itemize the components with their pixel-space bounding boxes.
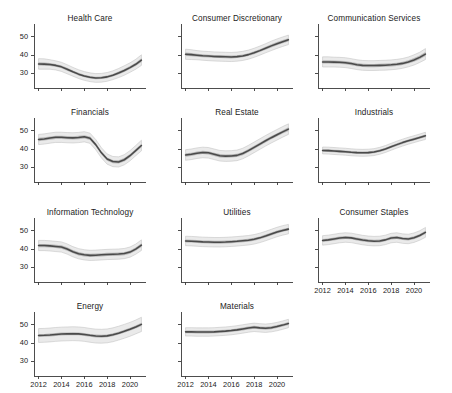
plot-area xyxy=(34,220,148,290)
x-tick-label: 2014 xyxy=(196,381,220,389)
x-tick-label: 2018 xyxy=(379,287,403,295)
panel-title: Health Care xyxy=(34,14,146,24)
panel-financials: Financials xyxy=(34,108,146,182)
panel-communication-services: Communication Services xyxy=(318,14,430,88)
panel-materials: Materials xyxy=(181,302,293,376)
panel-consumer-staples: Consumer Staples xyxy=(318,208,430,282)
y-tick-label: 50 xyxy=(4,227,28,235)
x-tick-label: 2018 xyxy=(242,381,266,389)
x-tick-label: 2014 xyxy=(49,381,73,389)
y-tick-label: 50 xyxy=(4,127,28,135)
x-tick-label: 2012 xyxy=(174,381,198,389)
x-tick-label: 2020 xyxy=(402,287,426,295)
panel-real-estate: Real Estate xyxy=(181,108,293,182)
plot-area xyxy=(318,220,432,290)
x-tick-label: 2018 xyxy=(95,381,119,389)
panel-information-technology: Information Technology xyxy=(34,208,146,282)
panel-title: Industrials xyxy=(318,108,430,118)
sector-small-multiples-figure: Health Care304050Consumer DiscretionaryC… xyxy=(0,0,452,393)
x-tick-label: 2016 xyxy=(72,381,96,389)
plot-area xyxy=(34,314,148,384)
y-tick-label: 30 xyxy=(4,163,28,171)
plot-area xyxy=(318,26,432,96)
plot-area xyxy=(181,120,295,190)
outer-confidence-band xyxy=(323,227,426,245)
y-tick-label: 40 xyxy=(4,145,28,153)
x-tick-label: 2016 xyxy=(356,287,380,295)
panel-title: Real Estate xyxy=(181,108,293,118)
plot-area xyxy=(318,120,432,190)
x-tick-label: 2012 xyxy=(311,287,335,295)
panel-energy: Energy xyxy=(34,302,146,376)
panel-title: Utilities xyxy=(181,208,293,218)
y-tick-label: 30 xyxy=(4,263,28,271)
panel-title: Consumer Staples xyxy=(318,208,430,218)
panel-title: Consumer Discretionary xyxy=(181,14,293,24)
y-tick-label: 30 xyxy=(4,357,28,365)
y-tick-label: 40 xyxy=(4,245,28,253)
x-tick-label: 2016 xyxy=(219,381,243,389)
plot-area xyxy=(181,314,295,384)
plot-area xyxy=(34,26,148,96)
panel-consumer-discretionary: Consumer Discretionary xyxy=(181,14,293,88)
y-tick-label: 40 xyxy=(4,51,28,59)
panel-title: Materials xyxy=(181,302,293,312)
panel-utilities: Utilities xyxy=(181,208,293,282)
panel-health-care: Health Care xyxy=(34,14,146,88)
panel-title: Information Technology xyxy=(34,208,146,218)
panel-title: Financials xyxy=(34,108,146,118)
y-tick-label: 40 xyxy=(4,339,28,347)
outer-confidence-band xyxy=(39,240,142,261)
y-tick-label: 50 xyxy=(4,321,28,329)
y-tick-label: 30 xyxy=(4,69,28,77)
outer-confidence-band xyxy=(186,224,289,247)
x-tick-label: 2020 xyxy=(265,381,289,389)
y-tick-label: 50 xyxy=(4,33,28,41)
plot-area xyxy=(181,26,295,96)
x-tick-label: 2014 xyxy=(333,287,357,295)
x-tick-label: 2012 xyxy=(27,381,51,389)
panel-title: Energy xyxy=(34,302,146,312)
x-tick-label: 2020 xyxy=(118,381,142,389)
plot-area xyxy=(34,120,148,190)
panel-industrials: Industrials xyxy=(318,108,430,182)
plot-area xyxy=(181,220,295,290)
panel-title: Communication Services xyxy=(318,14,430,24)
